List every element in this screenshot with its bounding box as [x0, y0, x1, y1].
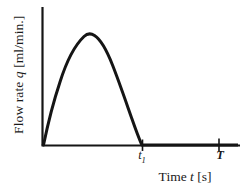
x-tick-label-t1-subscript: 1 [142, 155, 146, 165]
y-axis-label-text: Flow rate q [ml/min.] [12, 16, 26, 134]
x-tick-label-T: T [206, 148, 234, 163]
x-axis-label: Time t [s] [140, 169, 230, 185]
y-axis-label: Flow rate q [ml/min.] [0, 0, 38, 150]
y-axis-label-symbol: q [11, 72, 26, 79]
x-axis-label-prefix: Time [159, 169, 190, 184]
x-axis-label-suffix: [s] [194, 169, 212, 184]
y-axis-label-suffix: [ml/min.] [11, 16, 26, 72]
y-axis-label-prefix: Flow rate [11, 78, 26, 134]
flow-rate-figure: Flow rate q [ml/min.] Time t [s] t1 T [0, 0, 249, 193]
flow-rate-curve [44, 34, 142, 145]
x-tick-label-t1: t1 [128, 148, 156, 165]
